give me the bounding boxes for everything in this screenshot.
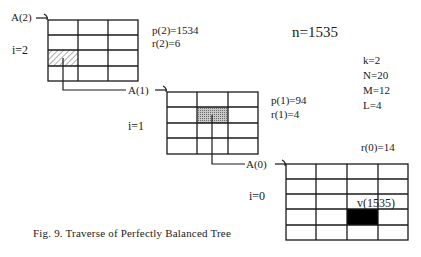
- param-m: M=12: [363, 85, 390, 96]
- p-label-1: p(1)=94: [271, 95, 307, 106]
- index-label-i0: i=0: [249, 190, 265, 202]
- value-label: v(1535): [357, 197, 395, 209]
- array-label-a0: A(0): [246, 159, 267, 170]
- index-label-i2: i=2: [12, 44, 28, 56]
- r-label-0: r(0)=14: [361, 142, 395, 153]
- param-k: k=2: [363, 55, 380, 66]
- r-label-1: r(1)=4: [271, 109, 299, 120]
- array-label-a2: A(2): [11, 12, 32, 23]
- arrow-a2: [36, 14, 48, 20]
- r-label-2: r(2)=6: [152, 38, 180, 49]
- param-n: N=20: [363, 70, 388, 81]
- n-label: n=1535: [292, 25, 338, 40]
- param-l: L=4: [363, 100, 381, 111]
- diagram-canvas: [0, 0, 421, 257]
- grid-a2: [48, 20, 138, 81]
- solid-cell: [347, 209, 378, 225]
- p-label-2: p(2)=1534: [152, 25, 199, 36]
- figure-caption: Fig. 9. Traverse of Perfectly Balanced T…: [33, 228, 231, 239]
- array-label-a1: A(1): [128, 85, 149, 96]
- index-label-i1: i=1: [128, 120, 144, 132]
